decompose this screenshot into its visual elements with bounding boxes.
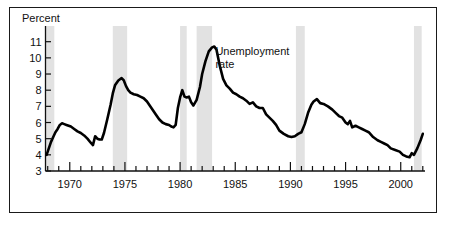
y-tick-label-7: 7 <box>35 100 41 112</box>
y-axis-title: Percent <box>22 12 60 24</box>
series-line-unemployment-rate <box>47 47 423 158</box>
chart-frame: 345678910111970197519801985199019952000P… <box>9 7 437 213</box>
x-tick-label-1995: 1995 <box>333 178 357 190</box>
y-tick-label-5: 5 <box>35 133 41 145</box>
y-tick-label-10: 10 <box>29 52 41 64</box>
recession-band-5 <box>296 26 305 171</box>
recession-band-1 <box>46 26 55 171</box>
x-tick-label-1985: 1985 <box>223 178 247 190</box>
y-tick-label-9: 9 <box>35 68 41 80</box>
recession-band-4 <box>197 26 212 171</box>
x-tick-label-1990: 1990 <box>278 178 302 190</box>
y-tick-label-6: 6 <box>35 117 41 129</box>
x-tick-label-1980: 1980 <box>168 178 192 190</box>
annotation-line-1: Unemployment <box>215 45 289 57</box>
x-axis-ticks-group <box>48 162 423 171</box>
x-axis-labels-group: 1970197519801985199019952000 <box>58 178 413 190</box>
unemployment-rate-figure: 345678910111970197519801985199019952000P… <box>0 0 449 225</box>
x-tick-label-1970: 1970 <box>58 178 82 190</box>
y-tick-label-8: 8 <box>35 84 41 96</box>
x-tick-label-1975: 1975 <box>113 178 137 190</box>
unemployment-rate-chart: 345678910111970197519801985199019952000P… <box>10 8 435 211</box>
y-tick-label-3: 3 <box>35 165 41 177</box>
annotation-line-2: rate <box>215 58 234 70</box>
y-tick-label-11: 11 <box>30 36 41 48</box>
y-tick-label-4: 4 <box>35 149 41 161</box>
annotation-series-label: Unemploymentrate <box>215 45 289 70</box>
x-tick-label-2000: 2000 <box>388 178 412 190</box>
recession-band-2 <box>113 26 127 171</box>
